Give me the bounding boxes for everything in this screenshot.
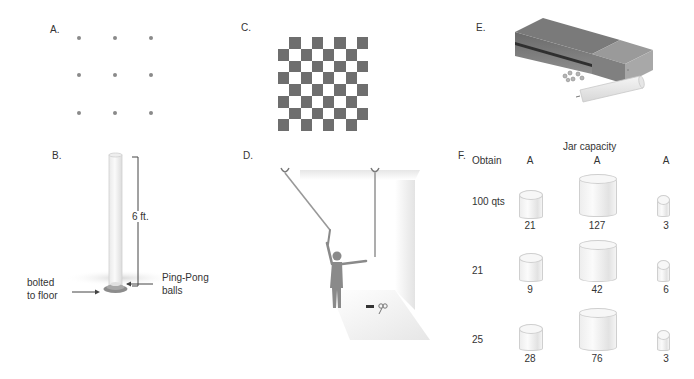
board-square [323,37,335,49]
bolted-label-line2: to floor [27,290,58,301]
dot-icon [113,73,117,77]
board-square [334,49,346,61]
board-square [278,108,290,120]
mutilated-checkerboard [278,37,368,131]
board-square [301,72,313,84]
jar-b-icon [579,177,617,217]
board-square [312,119,324,131]
board-square [301,108,313,120]
jar-a-value: 9 [515,284,545,295]
board-square [278,49,290,61]
board-square [357,61,369,73]
tube-icon [109,153,122,287]
board-square [278,61,290,73]
board-square [289,84,301,96]
board-square [357,37,369,49]
jar-a-icon [519,327,543,351]
dot-icon [113,36,117,40]
panel-f-label: F. [458,150,466,161]
jar-c-value: 6 [651,284,681,295]
dot-icon [149,36,153,40]
dot-icon [77,111,81,115]
dot-icon [77,36,81,40]
jar-a-value: 28 [515,353,545,364]
jar-header-1: A [515,155,545,166]
board-square [357,72,369,84]
jar-c-value: 3 [651,220,681,231]
board-square [289,37,301,49]
board-square [334,72,346,84]
board-square [289,96,301,108]
jar-b-value: 42 [582,284,612,295]
dot-icon [113,111,117,115]
jar-c-icon [657,333,670,351]
board-square [346,72,358,84]
two-string-room-illustration [270,160,440,340]
board-square [334,96,346,108]
board-square [346,84,358,96]
candle-problem-illustration [510,12,680,102]
board-square [289,61,301,73]
jar-b-value: 127 [582,220,612,231]
board-square [323,49,335,61]
jar-a-icon [519,193,543,219]
board-square [301,61,313,73]
board-square [278,119,290,131]
board-square [357,84,369,96]
jar-b-icon [579,311,617,351]
jar-a-value: 21 [515,220,545,231]
board-square [312,108,324,120]
jar-header-3: A [651,155,681,166]
board-square [323,108,335,120]
dot-icon [149,73,153,77]
obtain-header: Obtain [472,155,501,166]
board-square [278,84,290,96]
jar-capacity-title: Jar capacity [563,141,616,152]
jar-c-value: 3 [651,353,681,364]
height-label: 6 ft. [131,211,150,222]
board-square [346,96,358,108]
board-square [301,37,313,49]
jar-c-icon [657,263,670,282]
panel-c-label: C. [241,22,251,33]
board-square [323,72,335,84]
board-square [312,61,324,73]
board-square [334,37,346,49]
board-square [312,96,324,108]
board-square [289,49,301,61]
pliers-icon [366,305,374,308]
obtain-value: 100 qts [472,196,505,207]
matchbox-icon [515,18,653,84]
board-square [301,84,313,96]
jar-a-icon [519,256,543,282]
board-square [278,96,290,108]
board-square [278,72,290,84]
board-square [312,49,324,61]
board-square [357,108,369,120]
panel-e-label: E. [476,22,485,33]
board-square [357,49,369,61]
thumbtacks-icon [563,71,584,82]
board-square [312,72,324,84]
board-square [289,119,301,131]
board-square [346,37,358,49]
board-square [334,119,346,131]
dot-icon [149,111,153,115]
board-square [323,61,335,73]
board-square [289,72,301,84]
board-square [346,61,358,73]
jar-c-icon [657,198,670,217]
board-square [312,37,324,49]
board-square [346,108,358,120]
board-square [323,119,335,131]
board-square [334,61,346,73]
board-square [312,84,324,96]
board-square [357,96,369,108]
board-square [346,49,358,61]
obtain-value: 25 [472,334,483,345]
obtain-value: 21 [472,265,483,276]
jar-b-icon [579,243,617,282]
board-square [346,119,358,131]
board-square [323,96,335,108]
board-square [323,84,335,96]
